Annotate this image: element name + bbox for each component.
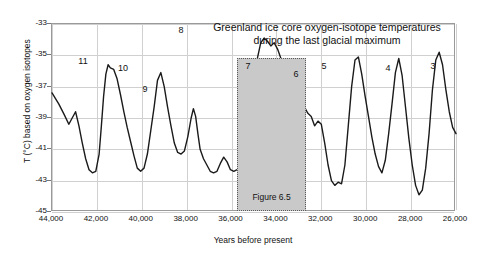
peak-label-4: 4: [381, 64, 395, 73]
peak-label-3: 3: [426, 62, 440, 71]
chart-title-line-1: Greenland ice core oxygen-isotope temper…: [196, 21, 458, 34]
x-axis-label: Years before present: [146, 235, 360, 245]
y-tick-mark: [47, 54, 51, 55]
y-axis-label: T (°C) based on oxygen isotopes: [22, 16, 32, 186]
y-tick-mark: [47, 23, 51, 24]
x-tick-label: 34,000: [251, 214, 299, 223]
y-tick-mark: [47, 86, 51, 87]
peak-label-10: 10: [116, 64, 130, 73]
x-tick-label: 26,000: [431, 214, 479, 223]
y-tick-mark: [47, 148, 51, 149]
figure-highlight-region: [237, 58, 306, 211]
y-tick-mark: [47, 117, 51, 118]
y-tick-mark: [47, 180, 51, 181]
x-tick-label: 36,000: [207, 214, 255, 223]
x-tick-label: 38,000: [162, 214, 210, 223]
peak-label-11: 11: [76, 57, 90, 66]
x-tick-label: 40,000: [117, 214, 165, 223]
chart-title-line-2: during the last glacial maximum: [196, 34, 458, 47]
peak-label-5: 5: [317, 62, 331, 71]
x-tick-label: 42,000: [72, 214, 120, 223]
chart-title: Greenland ice core oxygen-isotope temper…: [196, 21, 458, 46]
peak-label-7: 7: [241, 62, 255, 71]
peak-label-8: 8: [174, 26, 188, 35]
x-tick-label: 30,000: [341, 214, 389, 223]
x-tick-label: 32,000: [296, 214, 344, 223]
x-tick-label: 28,000: [386, 214, 434, 223]
peak-label-6: 6: [289, 70, 303, 79]
figure-highlight-label: Figure 6.5: [237, 192, 306, 202]
peak-label-9: 9: [138, 85, 152, 94]
chart-figure: -33-35-37-39-41-43-45 T (°C) based on ox…: [0, 0, 491, 257]
x-tick-label: 44,000: [27, 214, 75, 223]
y-tick-mark: [47, 211, 51, 212]
gridline-vertical: [456, 24, 457, 210]
gridline-horizontal: [52, 212, 454, 213]
